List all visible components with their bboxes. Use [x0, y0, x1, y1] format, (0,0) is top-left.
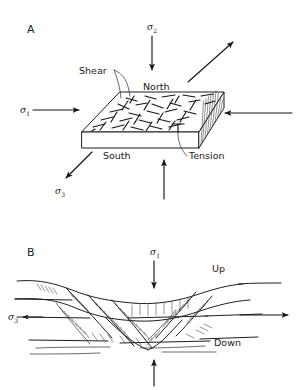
tension-label: Tension: [188, 150, 224, 161]
slab-front-face: [82, 132, 199, 148]
north-label: North: [143, 81, 170, 92]
panel-a-label: A: [27, 23, 35, 36]
figure-svg: A σ2 σ1 σ3: [0, 0, 299, 390]
figure-canvas: A σ2 σ1 σ3: [0, 0, 299, 390]
south-label: South: [103, 150, 131, 161]
up-label: Up: [212, 263, 225, 274]
shear-label: Shear: [79, 65, 107, 76]
panel-b-label: B: [27, 246, 35, 259]
background: [0, 0, 299, 390]
